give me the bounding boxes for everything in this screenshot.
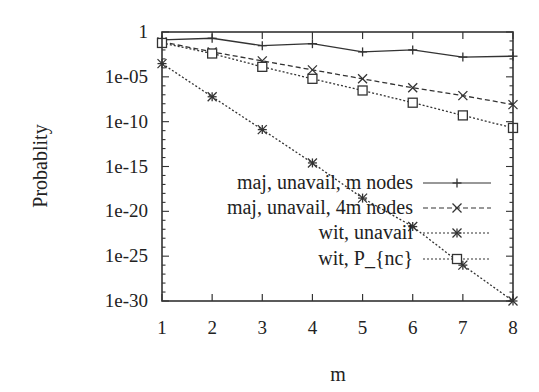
x-tick-label: 1 (157, 317, 167, 338)
legend-label: wit, unavail (319, 221, 414, 243)
legend-label: maj, unavail, m nodes (237, 171, 413, 194)
y-tick-label: 1 (139, 21, 149, 42)
legend-item: wit, unavail (319, 221, 491, 243)
legend-item: maj, unavail, m nodes (237, 171, 491, 194)
x-tick-labels: 12345678 (157, 317, 518, 338)
series-wit-p-nc- (158, 38, 518, 132)
legend-item: maj, unavail, 4m nodes (227, 196, 491, 219)
x-tick-label: 8 (508, 317, 518, 338)
y-tick-label: 1e-05 (105, 66, 148, 87)
legend-label: maj, unavail, 4m nodes (227, 196, 413, 219)
y-tick-label: 1e-15 (105, 156, 148, 177)
y-tick-label: 1e-25 (105, 245, 148, 266)
legend-label: wit, P_{nc} (318, 247, 413, 269)
y-tick-label: 1e-20 (105, 200, 148, 221)
x-tick-label: 3 (258, 317, 268, 338)
x-tick-label: 4 (308, 317, 318, 338)
x-tick-label: 5 (358, 317, 368, 338)
y-tick-labels: 11e-051e-101e-151e-201e-251e-30 (105, 21, 148, 311)
x-tick-label: 7 (458, 317, 468, 338)
legend: maj, unavail, m nodesmaj, unavail, 4m no… (227, 171, 491, 269)
x-axis-title: m (330, 363, 346, 385)
y-axis-title: Probablity (29, 124, 52, 207)
y-tick-label: 1e-30 (105, 290, 148, 311)
x-tick-label: 6 (408, 317, 418, 338)
probability-chart: 11e-051e-101e-151e-201e-251e-30 12345678… (0, 0, 539, 392)
y-tick-label: 1e-10 (105, 111, 148, 132)
x-tick-label: 2 (207, 317, 217, 338)
